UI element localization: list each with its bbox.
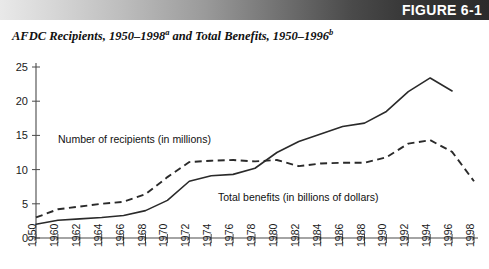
x-tick-label-1950: 1950: [26, 223, 38, 247]
y-tick-label-5: 5: [22, 198, 28, 210]
x-tick-label-1984: 1984: [311, 223, 323, 247]
y-tick-label-15: 15: [16, 129, 28, 141]
x-tick-label-1976: 1976: [223, 223, 235, 247]
x-tick-label-1970: 1970: [157, 223, 169, 247]
series-annotation-benefits: Total benefits (in billions of dollars): [218, 191, 379, 203]
x-tick-label-1994: 1994: [420, 223, 432, 247]
figure-banner-label: FIGURE 6-1: [402, 1, 482, 19]
series-annotation-recipients: Number of recipients (in millions): [58, 133, 211, 145]
chart-title: AFDC Recipients, 1950–1998a and Total Be…: [12, 29, 333, 44]
x-tick-label-1988: 1988: [355, 223, 367, 247]
x-tick-label-1968: 1968: [136, 223, 148, 247]
x-tick-label-1990: 1990: [376, 223, 388, 247]
chart-plot-area: 0510152025 19501960196219641966196819701…: [0, 52, 489, 269]
figure-banner: FIGURE 6-1: [0, 0, 489, 20]
y-tick-label-20: 20: [16, 95, 28, 107]
chart-title-footnote-b: b: [329, 27, 333, 37]
x-tick-label-1980: 1980: [267, 223, 279, 247]
chart-svg: 0510152025 19501960196219641966196819701…: [0, 52, 489, 269]
x-tick-label-1996: 1996: [442, 223, 454, 247]
chart-title-part-2: and Total Benefits, 1950–1996: [169, 29, 329, 43]
x-tick-label-1982: 1982: [289, 223, 301, 247]
x-tick-label-1966: 1966: [114, 223, 126, 247]
series-line-recipients: [36, 140, 474, 217]
chart-annotations: Number of recipients (in millions)Total …: [58, 133, 379, 203]
x-tick-label-1978: 1978: [245, 223, 257, 247]
x-tick-label-1998: 1998: [464, 223, 476, 247]
x-tick-label-1974: 1974: [201, 223, 213, 247]
x-tick-label-1986: 1986: [333, 223, 345, 247]
x-tick-label-1962: 1962: [70, 223, 82, 247]
x-axis: 1950196019621964196619681970197219741976…: [26, 223, 478, 247]
x-tick-label-1960: 1960: [48, 223, 60, 247]
chart-title-part-1: AFDC Recipients, 1950–1998: [12, 29, 165, 43]
x-tick-label-1972: 1972: [179, 223, 191, 247]
x-tick-label-1992: 1992: [398, 223, 410, 247]
x-tick-label-1964: 1964: [92, 223, 104, 247]
y-tick-label-10: 10: [16, 164, 28, 176]
y-tick-label-25: 25: [16, 61, 28, 73]
